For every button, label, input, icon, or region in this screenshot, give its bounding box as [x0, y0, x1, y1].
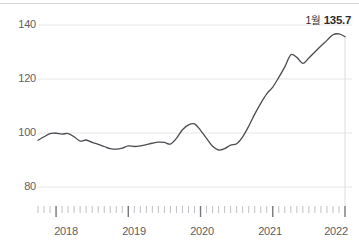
chart-plot-area — [0, 0, 359, 249]
end-annotation-month: 1월 — [306, 14, 321, 26]
end-value-annotation: 1월 135.7 — [306, 12, 351, 27]
line-chart: 140 120 100 80 2018 2019 2020 2021 2022 … — [0, 0, 359, 249]
x-axis-label-2022: 2022 — [316, 225, 356, 237]
x-axis-label-2018: 2018 — [46, 225, 86, 237]
y-axis-label-80: 80 — [6, 180, 36, 192]
y-axis-label-140: 140 — [6, 18, 36, 30]
x-axis-label-2019: 2019 — [114, 225, 154, 237]
gridlines-group — [38, 25, 352, 187]
y-axis-label-100: 100 — [6, 126, 36, 138]
y-axis-label-120: 120 — [6, 72, 36, 84]
x-axis-label-2021: 2021 — [250, 225, 290, 237]
end-annotation-value: 135.7 — [324, 14, 351, 26]
x-axis-ticks-group — [38, 206, 345, 217]
x-axis-label-2020: 2020 — [182, 225, 222, 237]
